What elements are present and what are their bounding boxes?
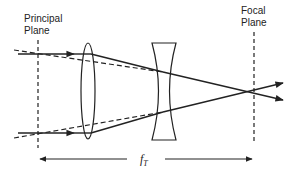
focal-length-label: fT [140,152,148,168]
principal-plane-label-line1: Principal [24,13,62,24]
telephoto-diagram: Principal Plane Focal Plane fT [0,0,296,175]
focal-plane-label-line2: Plane [241,17,267,28]
focal-plane-label-line1: Focal [241,5,265,16]
lower-equivalent-ray [14,112,163,138]
diverging-lens [152,43,176,140]
principal-plane-label-line2: Plane [24,25,50,36]
upper-ray-diverged [163,72,283,100]
lower-ray-diverged [163,83,283,112]
